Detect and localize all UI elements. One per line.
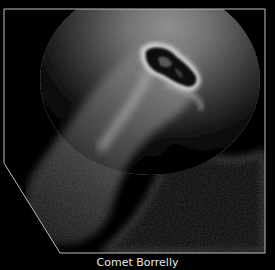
image-caption: Comet Borrelly [0,256,275,270]
